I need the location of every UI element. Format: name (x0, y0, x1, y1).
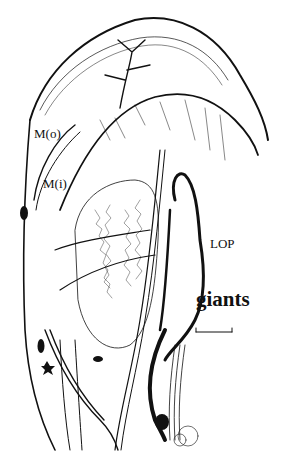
scale-bar (196, 328, 232, 332)
neuron-drawing (0, 0, 289, 462)
label-mi: M(i) (43, 176, 67, 192)
label-lop: LOP (210, 236, 235, 252)
label-giants: giants (196, 287, 250, 312)
outer-arc (30, 18, 268, 140)
label-mo: M(o) (34, 126, 61, 142)
neuron-figure: M(o) M(i) LOP giants (0, 0, 289, 462)
